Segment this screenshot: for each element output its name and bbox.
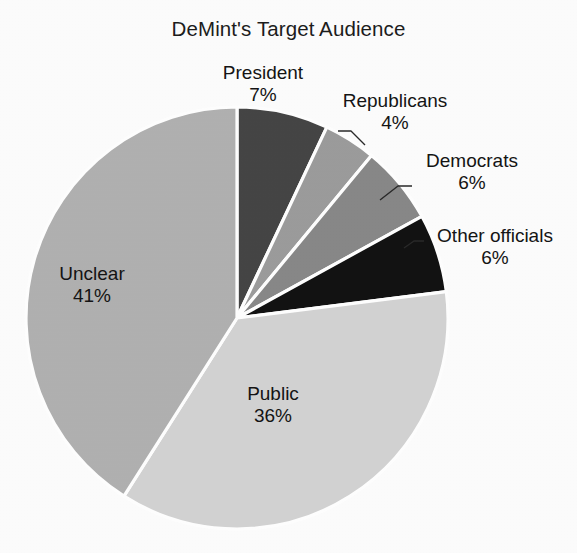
slice-label-public-value: 36% — [218, 405, 328, 427]
pie-slices-group — [26, 107, 448, 529]
slice-label-republicans: Republicans 4% — [330, 90, 460, 135]
slice-label-republicans-name: Republicans — [330, 90, 460, 112]
slice-label-republicans-value: 4% — [330, 112, 460, 134]
slice-label-other-officials-value: 6% — [420, 247, 570, 269]
slice-label-unclear-name: Unclear — [32, 263, 152, 285]
slice-label-democrats: Democrats 6% — [412, 150, 532, 195]
slice-label-president-value: 7% — [203, 84, 323, 106]
slice-label-other-officials: Other officials 6% — [420, 225, 570, 270]
slice-label-president: President 7% — [203, 62, 323, 107]
pie-chart-figure: DeMint's Target Audience President 7% Re… — [0, 0, 577, 553]
slice-label-president-name: President — [203, 62, 323, 84]
slice-label-unclear: Unclear 41% — [32, 263, 152, 308]
slice-label-other-officials-name: Other officials — [420, 225, 570, 247]
slice-label-public: Public 36% — [218, 383, 328, 428]
slice-label-democrats-value: 6% — [412, 172, 532, 194]
slice-label-unclear-value: 41% — [32, 285, 152, 307]
chart-title: DeMint's Target Audience — [0, 17, 577, 41]
slice-label-public-name: Public — [218, 383, 328, 405]
slice-label-democrats-name: Democrats — [412, 150, 532, 172]
